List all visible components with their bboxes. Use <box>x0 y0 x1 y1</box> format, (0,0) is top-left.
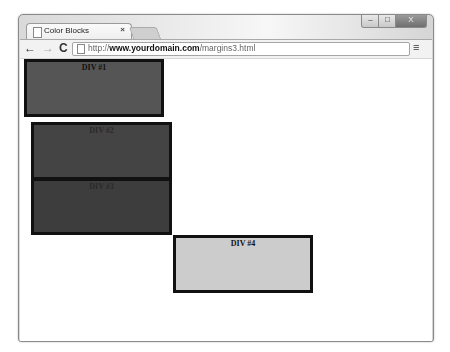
close-window-button[interactable]: X <box>395 15 427 28</box>
page-icon <box>77 44 85 54</box>
div-block-4: DIV #4 <box>173 235 313 293</box>
new-tab-button[interactable] <box>129 27 161 39</box>
div-label: DIV #1 <box>27 63 161 72</box>
div-block-1: DIV #1 <box>24 59 164 117</box>
tab-title: Color Blocks <box>44 26 89 35</box>
page-content: DIV #1 DIV #2 DIV #3 DIV #4 <box>20 58 432 341</box>
menu-icon[interactable]: ≡ <box>413 41 419 53</box>
browser-toolbar: ← → C http://www.yourdomain.com/margins3… <box>20 39 432 59</box>
minimize-icon: – <box>368 15 372 24</box>
back-arrow-icon[interactable]: ← <box>24 41 36 55</box>
url-text: http://www.yourdomain.com/margins3.html <box>88 43 255 53</box>
div-label: DIV #4 <box>176 239 310 248</box>
tab-color-blocks[interactable]: Color Blocks × <box>26 23 132 40</box>
address-bar[interactable]: http://www.yourdomain.com/margins3.html <box>72 42 410 56</box>
reload-icon[interactable]: C <box>59 41 68 55</box>
div-label: DIV #3 <box>34 182 169 191</box>
url-path: /margins3.html <box>200 43 256 53</box>
page-icon <box>33 27 42 38</box>
forward-arrow-icon[interactable]: → <box>42 41 54 55</box>
maximize-icon: □ <box>385 15 390 24</box>
tab-close-icon[interactable]: × <box>120 25 125 34</box>
browser-window: Color Blocks × – □ X ← → C http://www.yo… <box>18 14 434 342</box>
url-prefix: http:// <box>88 43 109 53</box>
close-icon: X <box>408 15 413 24</box>
div-block-3: DIV #3 <box>31 178 172 235</box>
div-label: DIV #2 <box>34 126 169 135</box>
url-domain: www.yourdomain.com <box>109 43 199 53</box>
div-block-2: DIV #2 <box>31 122 172 180</box>
